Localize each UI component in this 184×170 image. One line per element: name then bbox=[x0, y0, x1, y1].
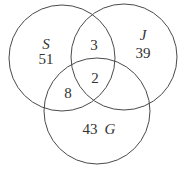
value-j-only: 39 bbox=[136, 45, 151, 61]
value-s-only: 51 bbox=[39, 51, 54, 67]
label-g: G bbox=[105, 121, 116, 137]
venn-diagram: S 51 J 39 3 2 8 43 G bbox=[0, 0, 184, 170]
value-g-only: 43 bbox=[83, 121, 98, 137]
label-s: S bbox=[42, 36, 50, 52]
value-s-g: 8 bbox=[64, 85, 72, 101]
label-j: J bbox=[140, 27, 148, 43]
circle-j bbox=[71, 4, 177, 110]
value-s-j-g: 2 bbox=[91, 70, 99, 86]
value-s-j: 3 bbox=[90, 37, 98, 53]
